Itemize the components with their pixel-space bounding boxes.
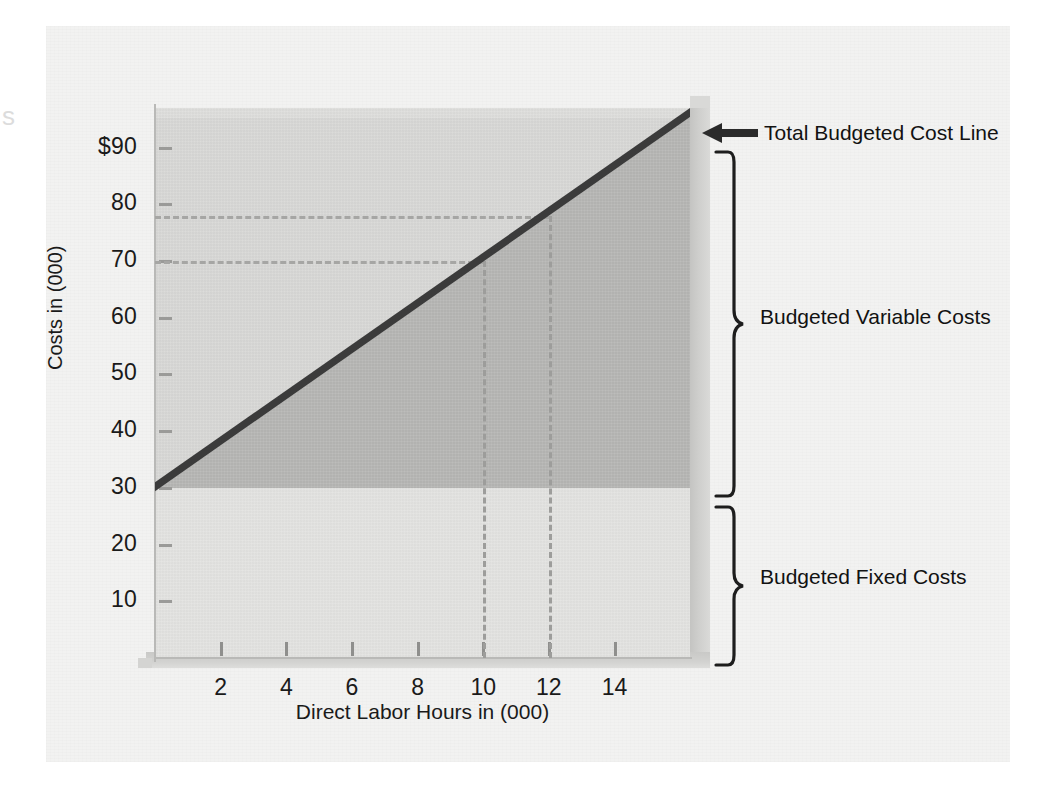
annotation-budgeted-fixed-costs: Budgeted Fixed Costs [760, 565, 967, 589]
brace-budgeted-variable-costs [712, 150, 746, 498]
x-axis-tick-label: 2 [191, 674, 251, 701]
plot-3d-right-panel-top [690, 96, 710, 108]
y-axis-tick-label: 80 [27, 189, 137, 216]
y-axis-tick-label: 20 [27, 530, 137, 557]
annotation-budgeted-variable-costs: Budgeted Variable Costs [760, 305, 991, 329]
x-axis-tick-label: 12 [519, 674, 579, 701]
x-axis-tick-label: 8 [388, 674, 448, 701]
y-axis-tick-label: $90 [27, 133, 137, 160]
x-axis-tick-label: 6 [322, 674, 382, 701]
x-axis-tick-label: 4 [256, 674, 316, 701]
annotation-total-budgeted-cost-line: Total Budgeted Cost Line [764, 121, 999, 145]
y-axis-tick-label: 40 [27, 416, 137, 443]
y-axis-title: Costs in (000) [44, 246, 67, 371]
arrow-left-icon [700, 120, 760, 146]
page-bleed-glyph: s [2, 98, 24, 134]
x-axis-tick-label: 10 [453, 674, 513, 701]
x-axis-tick-label: 14 [585, 674, 645, 701]
total-budgeted-cost-line [155, 108, 690, 658]
y-axis-tick-label: 30 [27, 473, 137, 500]
brace-budgeted-fixed-costs [712, 505, 746, 667]
plot-3d-right-panel [690, 96, 710, 664]
y-axis-tick-label: 10 [27, 586, 137, 613]
x-axis-title: Direct Labor Hours in (000) [155, 700, 690, 724]
plot-3d-bottom-wedge [138, 658, 152, 668]
